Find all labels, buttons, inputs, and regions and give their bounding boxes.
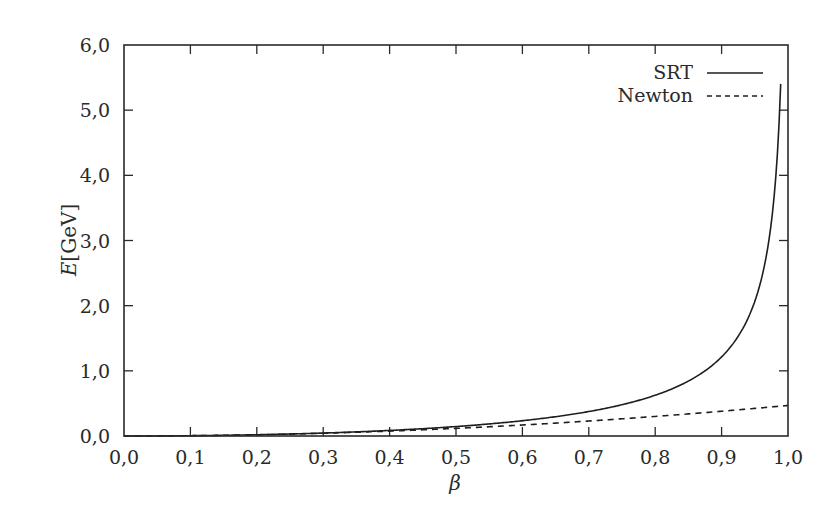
plot-curves [124,84,788,436]
y-tick-label: 3,0 [80,230,110,252]
y-tick-label: 6,0 [80,34,110,56]
y-tick-label: 0,0 [80,425,110,447]
x-tick-label: 0,2 [242,446,272,468]
y-tick-label: 2,0 [80,295,110,317]
chart: 0,00,10,20,30,40,50,60,70,80,91,00,01,02… [0,0,835,520]
x-tick-label: 1,0 [773,446,803,468]
x-tick-label: 0,4 [374,446,404,468]
x-tick-label: 0,7 [574,446,604,468]
legend: SRT Newton [618,61,763,106]
tick-labels: 0,00,10,20,30,40,50,60,70,80,91,00,01,02… [80,34,803,468]
x-tick-label: 0,3 [308,446,338,468]
y-tick-label: 4,0 [80,164,110,186]
y-axis-label: E[GeV] [57,204,81,277]
legend-label-srt: SRT [653,61,693,83]
x-axis-label: β [448,471,461,495]
x-tick-label: 0,8 [640,446,670,468]
y-tick-label: 5,0 [80,99,110,121]
x-tick-label: 0,0 [109,446,139,468]
x-tick-label: 0,6 [507,446,537,468]
legend-label-newton: Newton [618,84,693,106]
series-line-srt [124,84,781,436]
x-tick-label: 0,1 [175,446,205,468]
y-tick-label: 1,0 [80,360,110,382]
x-tick-label: 0,5 [441,446,471,468]
x-tick-label: 0,9 [706,446,736,468]
